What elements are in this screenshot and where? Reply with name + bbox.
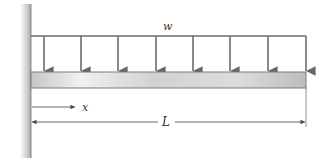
length-dimension: L [32, 88, 306, 129]
beam [31, 72, 306, 88]
load-label-w: w [163, 20, 173, 33]
distributed-load: w [31, 20, 306, 71]
cantilever-beam-diagram: w x L [0, 0, 323, 162]
length-label-L: L [161, 115, 170, 129]
x-dimension: x [32, 101, 89, 114]
fixed-wall-support [21, 4, 31, 158]
x-label: x [82, 101, 89, 114]
